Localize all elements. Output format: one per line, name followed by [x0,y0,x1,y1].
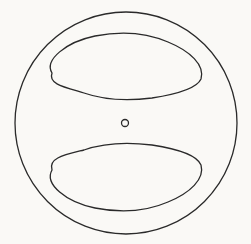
top-lens-opening [50,33,201,100]
outer-circle [15,12,237,234]
bottom-lens-opening [50,143,201,211]
diagram-canvas [0,0,251,244]
center-hole [122,120,129,127]
disc-diagram [0,0,251,244]
